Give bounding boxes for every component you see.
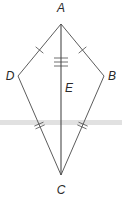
label-D: D [6,69,15,83]
segments [18,24,104,175]
tick-mark-AB [79,47,87,53]
diagram-canvas: A B C D E [0,0,122,201]
tick-mark-BC [77,125,86,129]
label-B: B [108,69,116,83]
tick-mark-AD [36,47,44,53]
segment-DC [18,76,61,175]
label-A: A [56,1,65,15]
tick-mark-DC [36,125,45,129]
label-C: C [57,183,66,197]
label-E: E [65,81,74,95]
kite-diagram: A B C D E [0,0,122,201]
